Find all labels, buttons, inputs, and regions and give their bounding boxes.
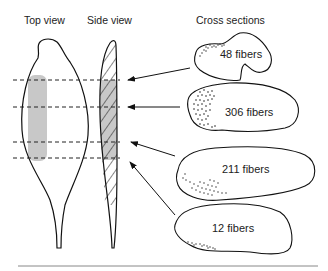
fiber-count-label-2: 306 fibers bbox=[225, 106, 273, 118]
fiber-dots-2 bbox=[193, 89, 216, 128]
top-view-muscle bbox=[22, 39, 89, 248]
diagram-graphics bbox=[0, 0, 328, 271]
fiber-dots-3 bbox=[182, 173, 226, 195]
top-view-heading: Top view bbox=[24, 14, 65, 26]
muscle-fiber-diagram: Top view Side view Cross sections 48 fib… bbox=[0, 0, 328, 271]
fiber-count-label-4: 12 fibers bbox=[212, 222, 254, 234]
cross-sections-heading: Cross sections bbox=[196, 14, 265, 26]
side-view-heading: Side view bbox=[87, 14, 132, 26]
fiber-count-label-3: 211 fibers bbox=[222, 163, 270, 175]
arrows bbox=[128, 68, 190, 215]
fiber-region-shading bbox=[28, 75, 47, 161]
fiber-count-label-1: 48 fibers bbox=[220, 48, 262, 60]
